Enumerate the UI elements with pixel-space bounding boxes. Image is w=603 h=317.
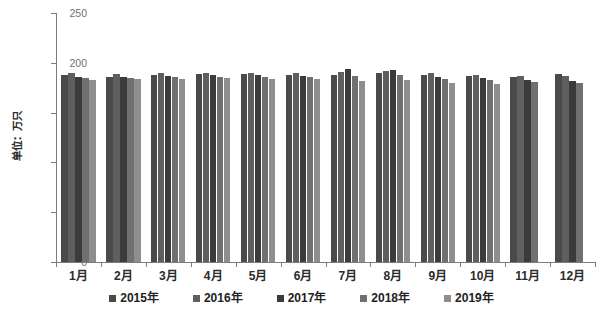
x-axis-tick bbox=[191, 262, 192, 267]
x-axis-tick-label: 9月 bbox=[415, 269, 460, 283]
bar-chart: 单位：万只 050100150200250 1月2月3月4月5月6月7月8月9月… bbox=[0, 0, 603, 317]
legend-swatch-icon bbox=[193, 295, 200, 302]
bar bbox=[127, 78, 133, 262]
bar bbox=[165, 76, 171, 262]
x-axis-tick bbox=[370, 262, 371, 267]
bar bbox=[435, 77, 441, 262]
x-axis-tick bbox=[281, 262, 282, 267]
x-axis-tick-label: 12月 bbox=[550, 269, 595, 283]
bar bbox=[466, 76, 472, 262]
bar bbox=[352, 76, 358, 262]
chart-legend: 2015年2016年2017年2018年2019年 bbox=[0, 292, 603, 305]
bar-group bbox=[56, 13, 101, 262]
legend-label: 2015年 bbox=[120, 292, 159, 305]
bar bbox=[300, 76, 306, 262]
x-axis-tick bbox=[595, 262, 596, 267]
legend-swatch-icon bbox=[444, 295, 451, 302]
legend-item[interactable]: 2016年 bbox=[193, 292, 243, 305]
bar bbox=[217, 77, 223, 262]
legend-item[interactable]: 2019年 bbox=[444, 292, 494, 305]
bar-group bbox=[146, 13, 191, 262]
bar bbox=[293, 73, 299, 262]
bar bbox=[179, 79, 185, 262]
bar-group bbox=[415, 13, 460, 262]
bar bbox=[524, 80, 530, 262]
legend-swatch-icon bbox=[109, 295, 116, 302]
bar bbox=[241, 74, 247, 262]
bar bbox=[487, 80, 493, 262]
bar-group bbox=[370, 13, 415, 262]
x-axis-tick-label: 3月 bbox=[146, 269, 191, 283]
bar bbox=[390, 70, 396, 262]
x-axis-tick-label: 8月 bbox=[370, 269, 415, 283]
bar bbox=[196, 74, 202, 262]
bar-group bbox=[505, 13, 550, 262]
bar bbox=[473, 75, 479, 262]
bar bbox=[449, 83, 455, 262]
bar bbox=[562, 76, 568, 262]
x-axis-tick-label: 5月 bbox=[236, 269, 281, 283]
bar bbox=[203, 73, 209, 262]
bar bbox=[345, 69, 351, 262]
bar bbox=[307, 77, 313, 262]
bar bbox=[442, 79, 448, 262]
legend-label: 2018年 bbox=[371, 292, 410, 305]
bar bbox=[210, 75, 216, 262]
bar bbox=[555, 74, 561, 262]
bar bbox=[404, 80, 410, 262]
bar bbox=[255, 75, 261, 262]
bar bbox=[494, 84, 500, 262]
bar-group bbox=[281, 13, 326, 262]
bar bbox=[517, 76, 523, 262]
bar bbox=[82, 78, 88, 262]
bar-group bbox=[191, 13, 236, 262]
bar bbox=[248, 73, 254, 262]
x-axis-tick bbox=[550, 262, 551, 267]
bar bbox=[480, 78, 486, 262]
x-axis-tick-label: 2月 bbox=[101, 269, 146, 283]
legend-label: 2016年 bbox=[204, 292, 243, 305]
x-axis-tick bbox=[56, 262, 57, 267]
bar bbox=[106, 77, 112, 262]
bar bbox=[172, 77, 178, 262]
bar bbox=[531, 82, 537, 262]
x-axis-tick-label: 4月 bbox=[191, 269, 236, 283]
legend-item[interactable]: 2018年 bbox=[360, 292, 410, 305]
legend-item[interactable]: 2015年 bbox=[109, 292, 159, 305]
bar-group bbox=[101, 13, 146, 262]
bar bbox=[576, 83, 582, 262]
x-axis-tick-label: 6月 bbox=[281, 269, 326, 283]
x-axis-tick bbox=[101, 262, 102, 267]
y-axis-title: 单位：万只 bbox=[9, 91, 24, 181]
plot-area bbox=[56, 13, 595, 262]
x-axis-tick bbox=[415, 262, 416, 267]
x-axis-tick bbox=[460, 262, 461, 267]
legend-label: 2017年 bbox=[288, 292, 327, 305]
legend-item[interactable]: 2017年 bbox=[277, 292, 327, 305]
x-axis-tick-label: 11月 bbox=[505, 269, 550, 283]
bar-group bbox=[326, 13, 371, 262]
bar-group bbox=[236, 13, 281, 262]
bar bbox=[428, 73, 434, 262]
bar bbox=[68, 73, 74, 262]
bar bbox=[120, 77, 126, 262]
bar bbox=[383, 71, 389, 262]
x-axis-tick-label: 1月 bbox=[56, 269, 101, 283]
bar bbox=[359, 81, 365, 262]
legend-swatch-icon bbox=[277, 295, 284, 302]
bar bbox=[224, 78, 230, 262]
bar bbox=[61, 75, 67, 262]
bar-group bbox=[460, 13, 505, 262]
bar bbox=[75, 77, 81, 262]
x-axis-tick bbox=[326, 262, 327, 267]
x-axis-tick bbox=[505, 262, 506, 267]
x-axis-tick-label: 10月 bbox=[460, 269, 505, 283]
bar bbox=[89, 80, 95, 262]
bar bbox=[569, 81, 575, 262]
bar bbox=[151, 75, 157, 262]
x-axis-tick bbox=[146, 262, 147, 267]
bar bbox=[269, 79, 275, 262]
bar bbox=[158, 73, 164, 262]
bar bbox=[286, 75, 292, 262]
bar bbox=[338, 72, 344, 262]
